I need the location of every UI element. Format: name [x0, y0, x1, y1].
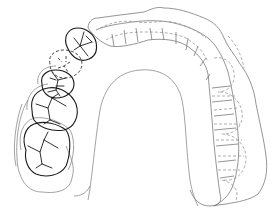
- diagram-svg: [0, 0, 275, 208]
- splint-tooth-dividers: [112, 28, 238, 178]
- splint-outline: [88, 7, 267, 206]
- molar-2: [20, 118, 74, 176]
- dental-arch-diagram: [0, 0, 275, 208]
- palate-outline: [74, 70, 198, 206]
- left-gum-outline: [14, 100, 73, 192]
- premolar-1-missing: [50, 50, 82, 78]
- premolar-2: [38, 66, 74, 98]
- splint-dashed-teeth: [100, 21, 246, 200]
